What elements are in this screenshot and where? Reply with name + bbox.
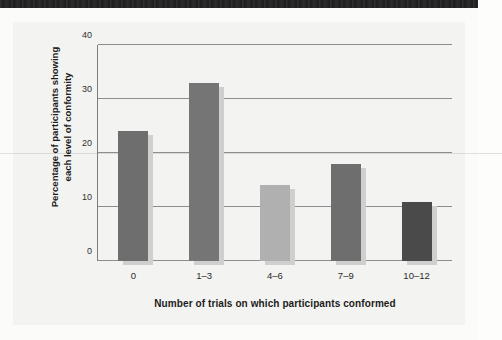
y-tick-label: 10 bbox=[82, 192, 92, 202]
y-tick-label: 30 bbox=[82, 84, 92, 94]
y-tick-label: 0 bbox=[87, 246, 92, 256]
x-tick-label: 0 bbox=[131, 270, 136, 281]
scanned-page: 010203040 01–34–67–910–12 Number of tria… bbox=[0, 0, 502, 340]
bar-column: 7–9 bbox=[331, 164, 361, 261]
y-axis-title-line-2: each level of conformity bbox=[62, 73, 73, 182]
bar-group: 10–12 bbox=[382, 45, 452, 261]
y-axis-title-line-1: Percentage of participants showing bbox=[49, 47, 60, 207]
bar-column: 10–12 bbox=[402, 202, 432, 261]
bar-column: 1–3 bbox=[189, 83, 219, 261]
bar-group: 7–9 bbox=[311, 45, 381, 261]
bar-group: 4–6 bbox=[240, 45, 310, 261]
bar-column: 0 bbox=[118, 131, 148, 261]
bar bbox=[331, 164, 361, 261]
scan-noise-texture bbox=[0, 0, 478, 8]
x-tick-label: 4–6 bbox=[267, 270, 283, 281]
x-tick-label: 7–9 bbox=[338, 270, 354, 281]
bar bbox=[402, 202, 432, 261]
bar-series: 01–34–67–910–12 bbox=[98, 45, 452, 261]
y-tick-label: 40 bbox=[82, 30, 92, 40]
x-tick-label: 1–3 bbox=[196, 270, 212, 281]
plot-area: 010203040 01–34–67–910–12 bbox=[98, 45, 452, 261]
bar bbox=[260, 185, 290, 261]
bar bbox=[189, 83, 219, 261]
bar-group: 0 bbox=[98, 45, 168, 261]
y-tick-label: 20 bbox=[82, 138, 92, 148]
y-axis-title: Percentage of participants showing each … bbox=[48, 32, 74, 222]
bar-column: 4–6 bbox=[260, 185, 290, 261]
scan-artifact-band bbox=[0, 0, 478, 8]
x-tick-label: 10–12 bbox=[403, 270, 429, 281]
bar-chart-figure: 010203040 01–34–67–910–12 Number of tria… bbox=[13, 22, 465, 325]
bar bbox=[118, 131, 148, 261]
x-axis-title: Number of trials on which participants c… bbox=[98, 298, 452, 309]
bar-group: 1–3 bbox=[169, 45, 239, 261]
